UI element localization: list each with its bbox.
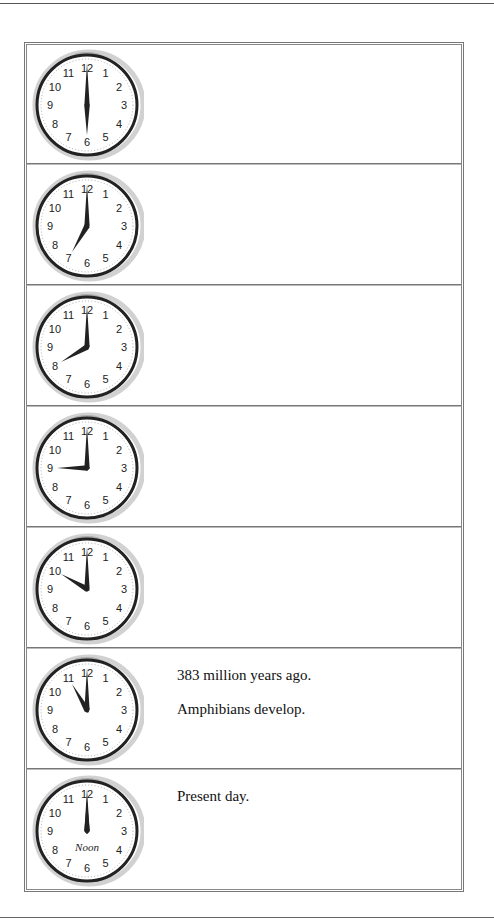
svg-text:9: 9 xyxy=(47,825,53,837)
svg-text:8: 8 xyxy=(52,481,58,493)
svg-text:5: 5 xyxy=(102,252,108,264)
caption-present-day: Present day. xyxy=(177,787,249,805)
svg-text:9: 9 xyxy=(47,462,53,474)
clock-icon: 121234567891011 xyxy=(30,410,144,526)
timeline-row: 121234567891011 xyxy=(27,408,461,527)
svg-text:6: 6 xyxy=(84,378,90,390)
svg-text:11: 11 xyxy=(63,188,74,200)
svg-text:3: 3 xyxy=(121,583,127,595)
svg-text:2: 2 xyxy=(116,202,122,214)
svg-text:1: 1 xyxy=(102,309,108,321)
svg-text:1: 1 xyxy=(102,672,108,684)
svg-text:7: 7 xyxy=(65,373,71,385)
svg-text:4: 4 xyxy=(116,481,122,493)
svg-text:5: 5 xyxy=(102,615,108,627)
svg-text:5: 5 xyxy=(102,857,108,869)
svg-text:1: 1 xyxy=(102,793,108,805)
svg-text:5: 5 xyxy=(102,373,108,385)
timeline-row: 121234567891011 xyxy=(27,529,461,648)
svg-text:5: 5 xyxy=(102,494,108,506)
svg-text:3: 3 xyxy=(121,704,127,716)
svg-text:10: 10 xyxy=(49,565,61,577)
svg-text:9: 9 xyxy=(47,583,53,595)
caption-time-ago: 383 million years ago. xyxy=(177,666,311,684)
svg-text:7: 7 xyxy=(65,252,71,264)
svg-text:1: 1 xyxy=(102,67,108,79)
svg-text:2: 2 xyxy=(116,81,122,93)
svg-text:2: 2 xyxy=(116,323,122,335)
svg-text:4: 4 xyxy=(116,844,122,856)
caption-event: Amphibians develop. xyxy=(177,700,311,718)
svg-text:4: 4 xyxy=(116,723,122,735)
row-caption: Present day. xyxy=(177,787,249,821)
svg-text:3: 3 xyxy=(121,341,127,353)
svg-text:4: 4 xyxy=(116,360,122,372)
svg-text:9: 9 xyxy=(47,704,53,716)
svg-text:8: 8 xyxy=(52,602,58,614)
timeline-row: 121234567891011 xyxy=(27,45,461,164)
svg-text:10: 10 xyxy=(49,807,61,819)
svg-text:9: 9 xyxy=(47,220,53,232)
svg-text:7: 7 xyxy=(65,736,71,748)
svg-text:2: 2 xyxy=(116,807,122,819)
svg-text:9: 9 xyxy=(47,341,53,353)
svg-text:11: 11 xyxy=(63,672,74,684)
svg-text:Noon: Noon xyxy=(74,841,99,853)
svg-text:5: 5 xyxy=(102,131,108,143)
svg-text:6: 6 xyxy=(84,862,90,874)
svg-text:2: 2 xyxy=(116,686,122,698)
svg-text:5: 5 xyxy=(102,736,108,748)
svg-text:11: 11 xyxy=(63,67,74,79)
svg-text:8: 8 xyxy=(52,118,58,130)
svg-text:7: 7 xyxy=(65,615,71,627)
svg-text:11: 11 xyxy=(63,793,74,805)
svg-text:7: 7 xyxy=(65,494,71,506)
svg-text:2: 2 xyxy=(116,565,122,577)
svg-text:7: 7 xyxy=(65,131,71,143)
svg-text:6: 6 xyxy=(84,499,90,511)
clock-icon: 121234567891011 xyxy=(30,168,144,284)
timeline-table: 121234567891011 121234567891011 12123456… xyxy=(24,42,464,892)
clock-icon: 121234567891011 xyxy=(30,289,144,405)
clock-icon: 121234567891011 xyxy=(30,652,144,768)
svg-text:10: 10 xyxy=(49,323,61,335)
svg-text:3: 3 xyxy=(121,825,127,837)
svg-text:2: 2 xyxy=(116,444,122,456)
svg-text:11: 11 xyxy=(63,551,74,563)
svg-text:7: 7 xyxy=(65,857,71,869)
svg-text:8: 8 xyxy=(52,723,58,735)
svg-text:10: 10 xyxy=(49,202,61,214)
bottom-rule xyxy=(0,917,494,918)
svg-text:10: 10 xyxy=(49,686,61,698)
clock-icon: 121234567891011 xyxy=(30,47,144,163)
svg-text:8: 8 xyxy=(52,360,58,372)
svg-text:4: 4 xyxy=(116,602,122,614)
timeline-row: 121234567891011 383 million years ago. A… xyxy=(27,650,461,769)
svg-text:6: 6 xyxy=(84,257,90,269)
svg-text:1: 1 xyxy=(102,430,108,442)
top-rule xyxy=(0,3,494,4)
svg-text:6: 6 xyxy=(84,741,90,753)
svg-text:3: 3 xyxy=(121,220,127,232)
svg-text:9: 9 xyxy=(47,99,53,111)
svg-text:6: 6 xyxy=(84,136,90,148)
svg-text:11: 11 xyxy=(63,309,74,321)
row-caption: 383 million years ago. Amphibians develo… xyxy=(177,666,311,734)
svg-text:8: 8 xyxy=(52,239,58,251)
clock-icon: 121234567891011 xyxy=(30,531,144,647)
svg-text:10: 10 xyxy=(49,444,61,456)
timeline-row: 121234567891011 xyxy=(27,166,461,285)
timeline-row: 121234567891011Noon Present day. xyxy=(27,771,461,889)
svg-text:1: 1 xyxy=(102,551,108,563)
timeline-table-inner: 121234567891011 121234567891011 12123456… xyxy=(26,44,462,890)
svg-text:4: 4 xyxy=(116,118,122,130)
svg-text:11: 11 xyxy=(63,430,74,442)
svg-text:10: 10 xyxy=(49,81,61,93)
timeline-row: 121234567891011 xyxy=(27,287,461,406)
svg-text:3: 3 xyxy=(121,462,127,474)
svg-text:6: 6 xyxy=(84,620,90,632)
svg-text:3: 3 xyxy=(121,99,127,111)
svg-text:4: 4 xyxy=(116,239,122,251)
svg-text:8: 8 xyxy=(52,844,58,856)
clock-icon: 121234567891011Noon xyxy=(30,773,144,889)
